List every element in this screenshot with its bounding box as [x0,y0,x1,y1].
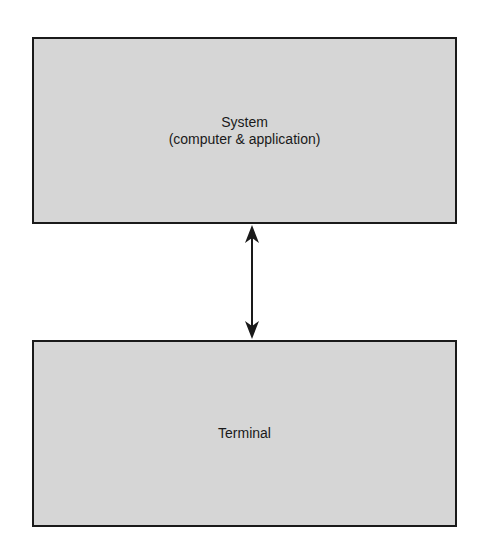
system-box: System (computer & application) [32,37,457,224]
terminal-title: Terminal [218,425,271,442]
diagram-canvas: System (computer & application) Terminal [0,0,482,549]
terminal-box: Terminal [32,340,457,527]
system-title: System [221,114,268,131]
system-subtitle: (computer & application) [169,131,321,148]
